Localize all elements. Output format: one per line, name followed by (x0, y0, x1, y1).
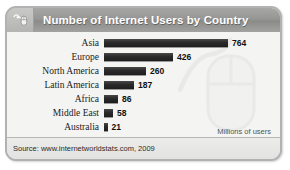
chart-header: Number of Internet Users by Country (7, 8, 280, 32)
table-row: Asia 764 (7, 36, 280, 50)
bar-value-label: 58 (117, 109, 126, 118)
bar-track: 58 (104, 109, 280, 118)
computer-mouse-icon (7, 8, 34, 32)
table-row: Africa 86 (7, 92, 280, 106)
bar-value-label: 764 (232, 39, 246, 48)
bar (104, 109, 113, 118)
bar-track: 187 (104, 81, 280, 90)
bar (104, 39, 228, 48)
bar-value-label: 426 (177, 53, 191, 62)
bar (104, 53, 173, 62)
bar-rows: Asia 764 Europe 426 North America 260 (7, 32, 280, 134)
category-label: Australia (7, 122, 104, 133)
bar-value-label: 86 (122, 95, 131, 104)
bar-value-label: 21 (112, 123, 121, 132)
bar-track: 86 (104, 95, 280, 104)
bar (104, 67, 146, 76)
bar-track: 764 (104, 39, 280, 48)
bar-value-label: 260 (150, 67, 164, 76)
bar-track: 426 (104, 53, 280, 62)
category-label: Latin America (7, 80, 104, 91)
table-row: North America 260 (7, 64, 280, 78)
table-row: Middle East 58 (7, 106, 280, 120)
category-label: Africa (7, 94, 104, 105)
chart-card: Number of Internet Users by Country Asia… (5, 6, 282, 161)
chart-footer: Source: www.internetworldstats.com, 2009 (7, 137, 280, 159)
bar (104, 95, 118, 104)
table-row: Europe 426 (7, 50, 280, 64)
bar-track: 260 (104, 67, 280, 76)
chart-title: Number of Internet Users by Country (43, 14, 248, 26)
category-label: Asia (7, 38, 104, 49)
category-label: Middle East (7, 108, 104, 119)
source-label: Source: www.internetworldstats.com, 2009 (13, 144, 155, 153)
chart-plot-area: Asia 764 Europe 426 North America 260 (7, 32, 280, 142)
axis-unit-label: Millions of users (217, 127, 271, 136)
bar (104, 123, 108, 132)
category-label: North America (7, 66, 104, 77)
bar-value-label: 187 (138, 81, 152, 90)
table-row: Latin America 187 (7, 78, 280, 92)
bar (104, 81, 134, 90)
category-label: Europe (7, 52, 104, 63)
